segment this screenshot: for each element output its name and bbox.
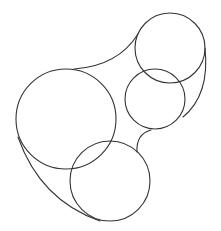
circle-hull-diagram	[0, 0, 221, 231]
background	[0, 0, 221, 231]
